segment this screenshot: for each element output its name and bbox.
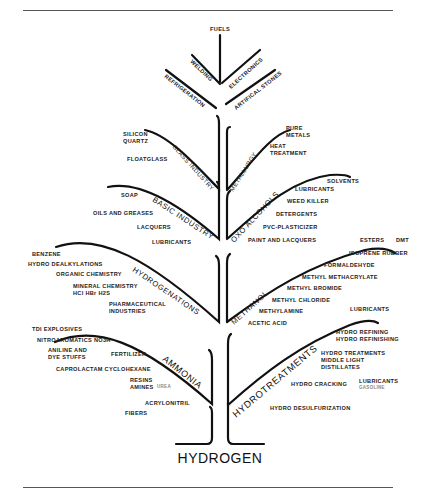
label-hydro-treatments: HYDRO TREATMENTS — [321, 350, 385, 356]
label-hydro-refining: HYDRO REFINING — [336, 329, 389, 335]
label-hydro-refinishing: HYDRO REFINISHING — [336, 336, 399, 342]
label-hydro-dealkylations: HYDRO DEALKYLATIONS — [28, 261, 103, 267]
label-aniline-and: ANILINE AND — [48, 347, 87, 353]
label-weed-killer: WEED KILLER — [287, 198, 329, 204]
label-organic-chemistry: ORGANIC CHEMISTRY — [56, 271, 122, 277]
label-acrylonitril: ACRYLONITRIL — [145, 400, 190, 406]
root-label-hydrogen: HYDROGEN — [178, 450, 263, 466]
branch-label-metallurgy: METALLURGY — [229, 151, 258, 193]
label-fuels: FUELS — [210, 26, 230, 32]
label-oils-and-greases: OILS AND GREASES — [93, 210, 153, 216]
label-solvents: SOLVENTS — [327, 178, 359, 184]
label-silicon: SILICON — [123, 131, 148, 137]
label-mineral-chemistry: MINERAL CHEMISTRY — [73, 283, 138, 289]
label-heat: HEAT — [270, 143, 286, 149]
label-methyl-bromide: METHYL BROMIDE — [287, 285, 342, 291]
label-soap: SOAP — [121, 192, 138, 198]
label-lubricants-basic: LUBRICANTS — [152, 239, 191, 245]
label-hcl-hbr-h2s: HCl HBr H2S — [73, 290, 110, 296]
branch-label-glass-industry: GLASS INDUSTRY — [171, 144, 215, 192]
label-industries: INDUSTRIES — [109, 308, 146, 314]
label-distillates: DISTILLATES — [321, 364, 360, 370]
hydrogen-tree-diagram: FUELS WELDING REFRIGERATION ELECTRONICS … — [0, 0, 428, 498]
label-resins: RESINS — [130, 377, 153, 383]
label-hydro-cracking: HYDRO CRACKING — [291, 381, 347, 387]
label-hydro-desulfurization: HYDRO DESULFURIZATION — [270, 405, 350, 411]
label-fertilizer: FERTILIZER — [111, 351, 146, 357]
branch-label-basic-industry: BASIC INDUSTRY — [151, 195, 216, 241]
label-tdi-explosives: TDI EXPLOSIVES — [32, 326, 82, 332]
label-quartz: QUARTZ — [123, 138, 148, 144]
label-formaldehyde: FORMALDEHYDE — [324, 262, 375, 268]
label-dye-stuffs: DYE STUFFS — [48, 354, 86, 360]
label-lubricants-oxo: LUBRICANTS — [295, 186, 334, 192]
label-metals: METALS — [286, 132, 310, 138]
label-lubricants-methanol: LUBRICANTS — [350, 306, 389, 312]
label-dmt: DMT — [396, 237, 409, 243]
label-fibers: FIBERS — [125, 410, 147, 416]
label-floatglass: FLOATGLASS — [127, 156, 168, 162]
label-pvc-plasticizer: PVC-PLASTICIZER — [263, 224, 318, 230]
label-pure: PURE — [286, 125, 303, 131]
label-urea: UREA — [157, 384, 171, 389]
label-paint-and-lacquers: PAINT AND LACQUERS — [248, 237, 316, 243]
label-gasoline: GASOLINE — [359, 385, 385, 390]
label-detergents: DETERGENTS — [276, 211, 317, 217]
label-refrigeration: REFRIGERATION — [163, 73, 206, 108]
label-benzene: BENZENE — [32, 251, 61, 257]
label-methyl-chloride: METHYL CHLORIDE — [272, 297, 330, 303]
label-treatment: TREATMENT — [270, 150, 307, 156]
label-pharmaceutical: PHARMACEUTICAL — [109, 301, 166, 307]
label-methyl-methacrylate: METHYL METHACRYLATE — [302, 274, 378, 280]
label-methylamine: METHYLAMINE — [259, 308, 303, 314]
label-welding: WELDING — [189, 58, 214, 82]
label-middle-light: MIDDLE LIGHT — [321, 357, 365, 363]
label-amines: AMINES — [130, 384, 154, 390]
root-left-stem — [176, 407, 212, 444]
label-caprolactam-cyclohexane: CAPROLACTAM CYCLOHEXANE — [56, 366, 151, 372]
label-esters: ESTERS — [360, 237, 384, 243]
label-acetic-acid: ACETIC ACID — [248, 320, 287, 326]
label-lubricants-hydro: LUBRICANTS — [359, 378, 398, 384]
label-isoprene-rubber: ISOPRENE RUBBER — [349, 250, 408, 256]
label-lacquers: LACQUERS — [137, 224, 171, 230]
label-nitroaromatics: NITROAROMATICS NO3H — [37, 337, 111, 343]
